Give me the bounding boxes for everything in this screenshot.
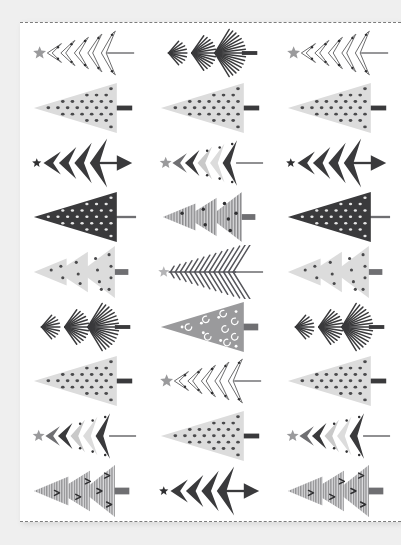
tree-cell-striped-layer-arrow-tree xyxy=(20,463,147,518)
tree-cell-outline-chevron-tree xyxy=(20,26,147,81)
tree-cell-multigray-chevron-tree xyxy=(147,135,274,190)
solid-chevron-arrow-dark-tree-icon xyxy=(25,136,143,190)
cut-line-bottom xyxy=(20,521,401,522)
solid-chevron-arrow-dark-tree-icon xyxy=(152,464,270,518)
tree-cell-hatched-layer-tree xyxy=(147,190,274,245)
fan-stripe-tree-icon xyxy=(152,26,270,80)
tree-cell-dotted-triangle-dark-tree xyxy=(274,190,401,245)
cut-line-top xyxy=(20,22,401,23)
tree-cell-fan-stripe-tree xyxy=(147,26,274,81)
tree-cell-fan-stripe-tree xyxy=(274,299,401,354)
dotted-triangle-dark-tree-icon xyxy=(25,190,143,244)
striped-layer-arrow-tree-icon xyxy=(279,464,397,518)
tree-cell-striped-layer-arrow-tree xyxy=(274,463,401,518)
tree-cell-dotted-triangle-dark-tree xyxy=(20,190,147,245)
dotted-triangle-light-tree-icon xyxy=(152,409,270,463)
swirl-triangle-tree-icon xyxy=(152,300,270,354)
outline-chevron-tree-icon xyxy=(279,26,397,80)
fan-stripe-tree-icon xyxy=(25,300,143,354)
dotted-triangle-light-tree-icon xyxy=(25,81,143,135)
tree-cell-swirl-triangle-tree xyxy=(147,299,274,354)
tree-cell-dotted-triangle-light-tree xyxy=(274,354,401,409)
screenshot-root xyxy=(0,0,401,545)
tree-cell-solid-chevron-arrow-dark-tree xyxy=(20,135,147,190)
pale-layer-dot-tree-icon xyxy=(279,245,397,299)
feather-spine-tree-icon xyxy=(152,245,270,299)
pale-layer-dot-tree-icon xyxy=(25,245,143,299)
multigray-chevron-tree-icon xyxy=(25,409,143,463)
solid-chevron-arrow-dark-tree-icon xyxy=(279,136,397,190)
tree-cell-pale-layer-dot-tree xyxy=(20,245,147,300)
tree-cell-fan-stripe-tree xyxy=(20,299,147,354)
multigray-chevron-tree-icon xyxy=(152,136,270,190)
dotted-triangle-light-tree-icon xyxy=(279,81,397,135)
outline-chevron-tree-icon xyxy=(25,26,143,80)
tree-cell-dotted-triangle-light-tree xyxy=(147,81,274,136)
fan-stripe-tree-icon xyxy=(279,300,397,354)
tree-cell-outline-chevron-tree xyxy=(147,354,274,409)
dotted-triangle-light-tree-icon xyxy=(152,81,270,135)
dotted-triangle-light-tree-icon xyxy=(279,354,397,408)
tree-cell-feather-spine-tree xyxy=(147,245,274,300)
hatched-layer-tree-icon xyxy=(152,190,270,244)
tree-cell-dotted-triangle-light-tree xyxy=(20,81,147,136)
tree-cell-dotted-triangle-light-tree xyxy=(147,409,274,464)
tree-cell-multigray-chevron-tree xyxy=(274,409,401,464)
tree-cell-solid-chevron-arrow-dark-tree xyxy=(274,135,401,190)
tree-cell-multigray-chevron-tree xyxy=(20,409,147,464)
tree-pattern-grid xyxy=(20,26,401,518)
striped-layer-arrow-tree-icon xyxy=(25,464,143,518)
dotted-triangle-dark-tree-icon xyxy=(279,190,397,244)
outline-chevron-tree-icon xyxy=(152,354,270,408)
tree-cell-solid-chevron-arrow-dark-tree xyxy=(147,463,274,518)
tree-cell-pale-layer-dot-tree xyxy=(274,245,401,300)
tree-cell-outline-chevron-tree xyxy=(274,26,401,81)
tree-cell-dotted-triangle-light-tree xyxy=(20,354,147,409)
tree-cell-dotted-triangle-light-tree xyxy=(274,81,401,136)
dotted-triangle-light-tree-icon xyxy=(25,354,143,408)
multigray-chevron-tree-icon xyxy=(279,409,397,463)
